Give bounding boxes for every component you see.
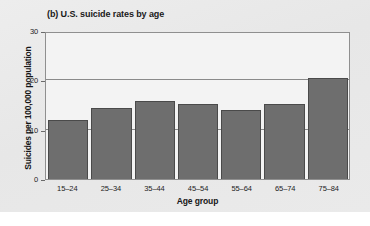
x-tick-label-35-44: 35–44 bbox=[134, 184, 175, 193]
x-tick-label-55-64: 55–64 bbox=[221, 184, 262, 193]
x-tick-label-75-84: 75–84 bbox=[308, 184, 349, 193]
bar-15-24[interactable] bbox=[48, 120, 88, 179]
y-tick-mark-0 bbox=[41, 180, 45, 181]
bar-65-74[interactable] bbox=[264, 104, 304, 179]
y-axis-label: Suicides per 100,000 population bbox=[23, 28, 33, 188]
y-tick-label-20: 20 bbox=[16, 76, 38, 85]
x-tick-label-45-54: 45–54 bbox=[178, 184, 219, 193]
x-tick-label-65-74: 65–74 bbox=[265, 184, 306, 193]
bar-25-34[interactable] bbox=[91, 108, 131, 179]
y-tick-label-0: 0 bbox=[16, 175, 38, 184]
bar-55-64[interactable] bbox=[221, 110, 261, 179]
bar-45-54[interactable] bbox=[178, 104, 218, 179]
figure-container: (b) U.S. suicide rates by age Suicides p… bbox=[0, 0, 370, 226]
bar-35-44[interactable] bbox=[135, 101, 175, 179]
y-tick-label-10: 10 bbox=[16, 126, 38, 135]
x-tick-label-15-24: 15–24 bbox=[47, 184, 88, 193]
bar-75-84[interactable] bbox=[308, 78, 348, 179]
x-axis-label: Age group bbox=[45, 196, 350, 206]
plot-area bbox=[45, 32, 350, 180]
x-tick-label-25-34: 25–34 bbox=[91, 184, 132, 193]
y-tick-label-30: 30 bbox=[16, 27, 38, 36]
chart-title: (b) U.S. suicide rates by age bbox=[47, 9, 164, 19]
bar-series bbox=[46, 33, 349, 179]
x-axis-tick-labels: 15–2425–3435–4445–5455–6465–7475–84 bbox=[45, 184, 350, 193]
